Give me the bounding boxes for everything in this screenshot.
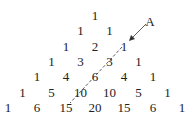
triangle-entry: 1 xyxy=(121,39,128,52)
triangle-entry: 3 xyxy=(77,54,84,67)
triangle-entry: 15 xyxy=(118,100,131,113)
triangle-entry: 1 xyxy=(34,70,41,83)
triangle-entry: 20 xyxy=(89,100,102,113)
triangle-entry: 1 xyxy=(92,9,99,22)
triangle-entry: 1 xyxy=(77,24,84,37)
triangle-entry: 1 xyxy=(179,100,186,113)
triangle-entry: 1 xyxy=(106,24,113,37)
triangle-entry: 10 xyxy=(103,85,116,98)
triangle-entry: 4 xyxy=(63,70,70,83)
triangle-entry: 6 xyxy=(34,100,41,113)
triangle-entry: 10 xyxy=(74,85,87,98)
triangle-entry: 2 xyxy=(92,39,99,52)
triangle-entry: 1 xyxy=(150,70,157,83)
triangle-entry: 4 xyxy=(121,70,128,83)
triangle-entry: 1 xyxy=(135,54,142,67)
triangle-entry: 6 xyxy=(92,70,99,83)
triangle-entry: 6 xyxy=(150,100,157,113)
triangle-entry: 5 xyxy=(135,85,142,98)
triangle-entry: 1 xyxy=(5,100,12,113)
arrow-line xyxy=(132,24,146,38)
triangle-entry: 1 xyxy=(63,39,70,52)
label-a: A xyxy=(145,15,154,28)
triangle-entry: 1 xyxy=(164,85,171,98)
triangle-entry: 3 xyxy=(106,54,113,67)
triangle-entry: 5 xyxy=(48,85,55,98)
triangle-entry: 1 xyxy=(48,54,55,67)
triangle-entry: 15 xyxy=(60,100,73,113)
triangle-entry: 1 xyxy=(19,85,26,98)
